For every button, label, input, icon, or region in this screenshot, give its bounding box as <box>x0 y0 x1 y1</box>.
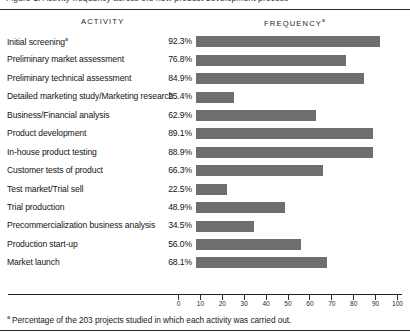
x-axis-tick-label: 10 <box>197 300 204 307</box>
activity-footnote-marker: a <box>65 36 68 42</box>
activity-row: Precommercialization business analysis34… <box>0 218 410 236</box>
activity-row-label: Preliminary technical assessment <box>7 73 131 83</box>
x-axis-ticks: 0102030405060708090100 <box>0 295 410 311</box>
activity-bar-track <box>196 184 406 195</box>
activity-bar-track <box>196 239 406 250</box>
activity-row: Product development89.1% <box>0 126 410 144</box>
activity-bar <box>196 55 346 66</box>
activity-bar-track <box>196 55 406 66</box>
activity-bar-track <box>196 73 406 84</box>
activity-bar <box>196 221 254 232</box>
activity-bar-track <box>196 36 406 47</box>
activity-row-label: In-house product testing <box>7 147 97 157</box>
activity-row-label: Product development <box>7 128 86 138</box>
bottom-rule <box>0 330 410 331</box>
activity-row: Preliminary market assessment76.8% <box>0 52 410 70</box>
activity-bar <box>196 202 285 213</box>
activity-row-value: 88.9% <box>158 147 192 157</box>
activity-bar <box>196 110 316 121</box>
activity-row-label: Precommercialization business analysis <box>7 220 155 230</box>
x-axis-tick-label: 30 <box>241 300 248 307</box>
activity-bar-track <box>196 257 406 268</box>
x-axis-tick-label: 100 <box>392 300 403 307</box>
activity-row: Detailed marketing study/Marketing resea… <box>0 89 410 107</box>
top-rule <box>0 9 410 10</box>
activity-row: Trial production48.9% <box>0 200 410 218</box>
x-axis-tick-label: 70 <box>328 300 335 307</box>
activity-row-value: 22.5% <box>158 184 192 194</box>
activity-bar-track <box>196 128 406 139</box>
figure-new-product-activity-frequency: Figure 1. Activity frequency across the … <box>0 0 410 332</box>
activity-row-value: 66.3% <box>158 165 192 175</box>
column-header-activity-label: ACTIVITY <box>81 17 124 26</box>
activity-row-label: Initial screeninga <box>7 36 68 47</box>
activity-bar-track <box>196 92 406 103</box>
activity-row-value: 68.1% <box>158 257 192 267</box>
activity-row: Production start-up56.0% <box>0 237 410 255</box>
activity-row-label: Preliminary market assessment <box>7 54 124 64</box>
x-axis-tick-label: 80 <box>350 300 357 307</box>
activity-bar <box>196 73 364 84</box>
activity-row-value: 48.9% <box>158 202 192 212</box>
activity-row-label: Market launch <box>7 257 60 267</box>
footnote-marker: a <box>7 314 10 320</box>
activity-row-label: Business/Financial analysis <box>7 110 109 120</box>
x-axis-tick-label: 50 <box>284 300 291 307</box>
activity-row: Preliminary technical assessment84.9% <box>0 71 410 89</box>
activity-row-value: 34.5% <box>158 220 192 230</box>
activity-row-value: 76.8% <box>158 54 192 64</box>
column-header-frequency-label: FREQUENCY <box>264 19 322 28</box>
activity-bar <box>196 165 323 176</box>
footnote: aPercentage of the 203 projects studied … <box>7 314 291 325</box>
activity-row-value: 92.3% <box>158 36 192 46</box>
activity-bar-track <box>196 147 406 158</box>
activity-row-label: Test market/Trial sell <box>7 184 83 194</box>
activity-bar <box>196 239 301 250</box>
activity-bar-track <box>196 110 406 121</box>
activity-bar <box>196 92 234 103</box>
activity-bar-track <box>196 202 406 213</box>
x-axis-tick-label: 90 <box>372 300 379 307</box>
caption-text: Figure 1. Activity frequency across the … <box>6 0 289 3</box>
activity-row: Business/Financial analysis62.9% <box>0 108 410 126</box>
activity-bar-track <box>196 165 406 176</box>
activity-row-value: 89.1% <box>158 128 192 138</box>
activity-row-label: Trial production <box>7 202 64 212</box>
frequency-footnote-marker: a <box>322 17 325 23</box>
activity-bar-track <box>196 221 406 232</box>
activity-row-label: Production start-up <box>7 239 78 249</box>
activity-row: Test market/Trial sell22.5% <box>0 182 410 200</box>
activity-row-value: 62.9% <box>158 110 192 120</box>
column-header-frequency: FREQUENCYa <box>264 17 325 28</box>
activity-bar <box>196 257 327 268</box>
activity-row: Customer tests of product66.3% <box>0 163 410 181</box>
x-axis-tick-label: 0 <box>177 300 181 307</box>
activity-row: Market launch68.1% <box>0 255 410 273</box>
x-axis-tick-label: 20 <box>219 300 226 307</box>
activity-row: Initial screeninga92.3% <box>0 34 410 52</box>
cropped-caption-sliver: Figure 1. Activity frequency across the … <box>0 0 410 7</box>
activity-row-label: Detailed marketing study/Marketing resea… <box>7 91 173 101</box>
activity-row: In-house product testing88.9% <box>0 145 410 163</box>
activity-row-value: 84.9% <box>158 73 192 83</box>
column-header-activity: ACTIVITY <box>81 17 124 26</box>
footnote-text: Percentage of the 203 projects studied i… <box>12 315 291 325</box>
activity-row-value: 25.4% <box>158 91 192 101</box>
activity-bar <box>196 128 373 139</box>
activity-row-label: Customer tests of product <box>7 165 103 175</box>
activity-row-value: 56.0% <box>158 239 192 249</box>
activity-bar <box>196 36 380 47</box>
activity-bar <box>196 147 373 158</box>
x-axis-tick-label: 40 <box>262 300 269 307</box>
activity-rows: Initial screeninga92.3%Preliminary marke… <box>0 34 410 274</box>
activity-bar <box>196 184 227 195</box>
x-axis-tick-label: 60 <box>306 300 313 307</box>
